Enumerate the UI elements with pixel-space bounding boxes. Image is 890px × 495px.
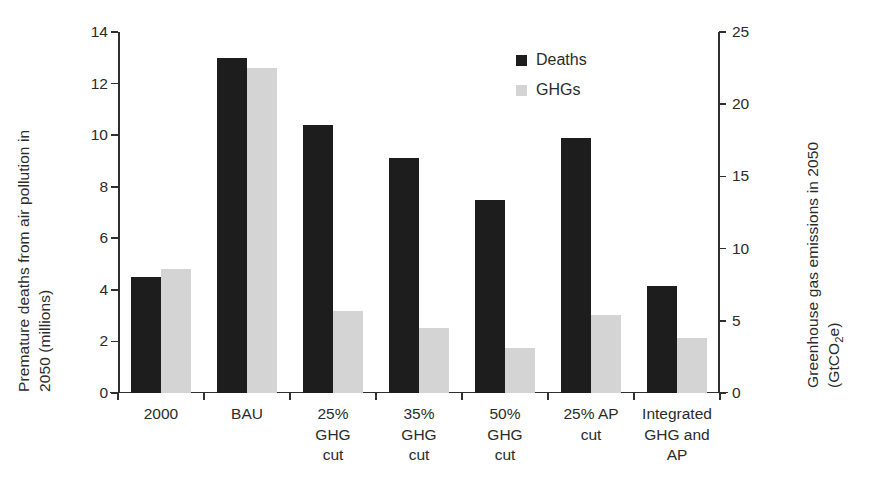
bar-group	[303, 32, 363, 393]
bar-deaths	[475, 200, 505, 393]
y-tick-right	[719, 31, 726, 33]
bar-ghgs	[419, 328, 449, 393]
y-tick-left	[111, 134, 118, 136]
y-tick-label-right: 15	[732, 168, 772, 184]
bar-ghgs	[247, 68, 277, 393]
y-tick-label-right: 20	[732, 96, 772, 112]
chart-figure: Premature deaths from air pollution in 2…	[0, 0, 890, 495]
bar-ghgs	[591, 315, 621, 393]
left-axis-title-line2: 2050 (millions)	[35, 130, 56, 392]
y-tick-left	[111, 289, 118, 291]
y-tick-label-right: 25	[732, 24, 772, 40]
y-tick-label-left: 2	[68, 333, 108, 349]
y-tick-left	[111, 341, 118, 343]
y-tick-label-right: 0	[732, 385, 772, 401]
y-tick-left	[111, 237, 118, 239]
bar-ghgs	[333, 311, 363, 393]
x-tick	[633, 393, 635, 400]
bar-ghgs	[161, 269, 191, 393]
y-tick-label-left: 12	[68, 76, 108, 92]
x-category-label-line: GHG and	[622, 425, 732, 446]
legend-label-deaths: Deaths	[536, 51, 587, 69]
bar-group	[389, 32, 449, 393]
x-category-label: IntegratedGHG andAP	[622, 404, 732, 466]
x-tick	[375, 393, 377, 400]
right-axis-title-prefix: (GtCO	[825, 343, 842, 388]
y-tick-label-right: 10	[732, 241, 772, 257]
x-category-label-line: AP	[622, 445, 732, 466]
x-tick	[461, 393, 463, 400]
x-tick	[117, 393, 119, 400]
bar-deaths	[303, 125, 333, 393]
legend-item-ghgs: GHGs	[516, 75, 587, 105]
y-tick-right	[719, 176, 726, 178]
bar-deaths	[647, 286, 677, 393]
y-tick-label-left: 14	[68, 24, 108, 40]
right-axis-title-line2: (GtCO2e)	[824, 142, 847, 388]
y-tick-left	[111, 186, 118, 188]
bar-ghgs	[677, 338, 707, 393]
left-axis-title-line1: Premature deaths from air pollution in	[14, 130, 35, 392]
y-tick-label-left: 4	[68, 282, 108, 298]
x-tick	[547, 393, 549, 400]
plot-area: 02468101214 0510152025	[118, 32, 720, 393]
right-axis-title-suffix: e)	[825, 322, 842, 336]
y-tick-label-right: 5	[732, 313, 772, 329]
bar-deaths	[217, 58, 247, 393]
x-tick	[203, 393, 205, 400]
legend-item-deaths: Deaths	[516, 45, 587, 75]
bar-group	[647, 32, 707, 393]
right-axis-title-subscript: 2	[833, 336, 845, 342]
bar-deaths	[561, 138, 591, 393]
bar-group	[217, 32, 277, 393]
y-tick-right	[719, 103, 726, 105]
y-tick-left	[111, 31, 118, 33]
legend-swatch-ghgs	[516, 85, 527, 96]
y-tick-label-left: 8	[68, 179, 108, 195]
y-axis-right-line	[718, 32, 720, 393]
legend-swatch-deaths	[516, 55, 527, 66]
bar-deaths	[389, 158, 419, 393]
x-category-label-line: Integrated	[622, 404, 732, 425]
left-axis-title: Premature deaths from air pollution in 2…	[14, 130, 56, 392]
y-tick-label-left: 0	[68, 385, 108, 401]
bar-group	[131, 32, 191, 393]
y-tick-right	[719, 320, 726, 322]
chart-legend: Deaths GHGs	[516, 45, 587, 105]
right-axis-title-line1: Greenhouse gas emissions in 2050	[803, 142, 824, 388]
x-tick	[719, 393, 721, 400]
x-category-label-line: cut	[450, 445, 560, 466]
y-tick-label-left: 6	[68, 230, 108, 246]
y-tick-right	[719, 248, 726, 250]
y-tick-left	[111, 83, 118, 85]
bar-ghgs	[505, 348, 535, 393]
right-axis-title: Greenhouse gas emissions in 2050 (GtCO2e…	[803, 142, 847, 388]
legend-label-ghgs: GHGs	[536, 81, 580, 99]
x-tick	[289, 393, 291, 400]
bar-deaths	[131, 277, 161, 393]
y-axis-left-line	[118, 32, 120, 393]
y-tick-label-left: 10	[68, 127, 108, 143]
